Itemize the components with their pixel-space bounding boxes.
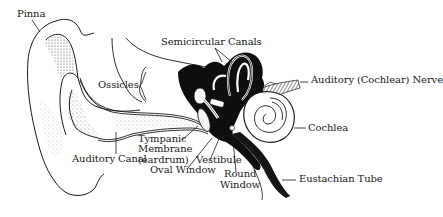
label-eustachian-tube: Eustachian Tube [299,174,383,184]
label-round-window-line2: Window [220,180,258,190]
label-pinna: Pinna [17,9,45,19]
label-ossicles: Ossicles [98,80,139,90]
canal-shading [112,112,208,132]
label-cochlea: Cochlea [308,123,348,133]
label-auditory-nerve: Auditory (Cochlear) Nerve [311,75,443,85]
label-auditory-canal: Auditory Canal [72,154,147,164]
label-semicircular-canals: Semicircular Canals [161,37,262,47]
round-window-shape [230,126,235,131]
label-round-window-line1: Round [224,169,254,179]
label-oval-window: Oval Window [150,165,216,175]
cochlea-shape [244,92,295,143]
